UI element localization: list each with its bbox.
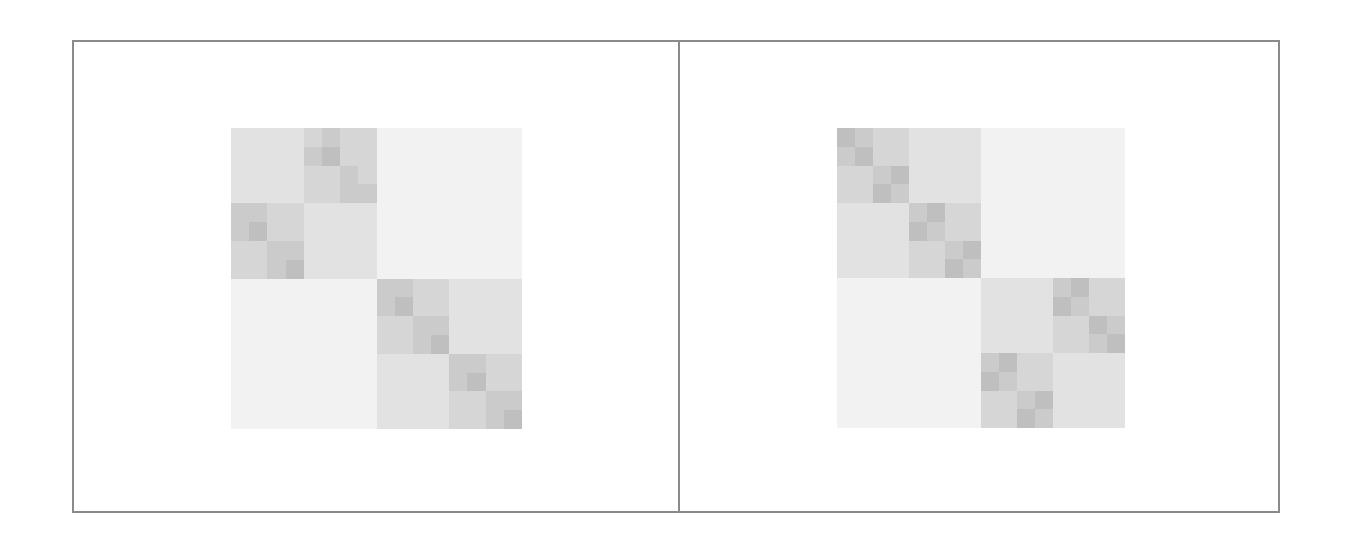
- matrix-cell: [486, 410, 504, 429]
- matrix-cell: [304, 147, 322, 166]
- matrix-cell: [1107, 391, 1125, 410]
- matrix-cell: [963, 222, 981, 241]
- matrix-cell: [304, 166, 322, 185]
- matrix-cell: [486, 373, 504, 392]
- matrix-cell: [413, 128, 431, 147]
- matrix-cell: [231, 147, 249, 166]
- matrix-cell: [267, 354, 285, 373]
- matrix-cell: [855, 259, 873, 278]
- matrix-cell: [286, 203, 304, 222]
- matrix-cell: [855, 278, 873, 297]
- matrix-cell: [909, 184, 927, 203]
- matrix-cell: [1089, 128, 1107, 147]
- matrix-cell: [395, 335, 413, 354]
- matrix-cell: [322, 354, 340, 373]
- matrix-cell: [340, 279, 358, 298]
- matrix-cell: [431, 279, 449, 298]
- matrix-cell: [837, 128, 855, 147]
- matrix-cell: [286, 222, 304, 241]
- matrix-cell: [449, 184, 467, 203]
- matrix-cell: [1071, 184, 1089, 203]
- matrix-cell: [486, 260, 504, 279]
- matrix-cell: [249, 391, 267, 410]
- matrix-cell: [891, 166, 909, 185]
- matrix-cell: [873, 409, 891, 428]
- matrix-cell: [999, 334, 1017, 353]
- matrix-cell: [486, 203, 504, 222]
- matrix-cell: [873, 128, 891, 147]
- matrix-cell: [981, 353, 999, 372]
- matrix-cell: [1017, 278, 1035, 297]
- matrix-cell: [358, 222, 376, 241]
- matrix-cell: [504, 297, 522, 316]
- matrix-cell: [1053, 241, 1071, 260]
- matrix-cell: [963, 353, 981, 372]
- matrix-cell: [449, 147, 467, 166]
- matrix-cell: [286, 410, 304, 429]
- matrix-cell: [486, 166, 504, 185]
- matrix-cell: [467, 391, 485, 410]
- matrix-cell: [855, 241, 873, 260]
- matrix-cell: [891, 278, 909, 297]
- matrix-cell: [927, 203, 945, 222]
- matrix-cell: [1107, 203, 1125, 222]
- matrix-cell: [504, 128, 522, 147]
- matrix-cell: [1107, 297, 1125, 316]
- matrix-cell: [855, 316, 873, 335]
- matrix-cell: [304, 316, 322, 335]
- matrix-cell: [1107, 409, 1125, 428]
- matrix-cell: [927, 259, 945, 278]
- matrix-cell: [981, 184, 999, 203]
- matrix-cell: [1053, 203, 1071, 222]
- matrix-cell: [945, 372, 963, 391]
- matrix-cell: [1017, 391, 1035, 410]
- matrix-cell: [999, 128, 1017, 147]
- matrix-cell: [358, 373, 376, 392]
- matrix-cell: [467, 147, 485, 166]
- matrix-cell: [431, 184, 449, 203]
- matrix-cell: [1035, 334, 1053, 353]
- matrix-cell: [358, 316, 376, 335]
- matrix-cell: [1089, 147, 1107, 166]
- matrix-cell: [377, 354, 395, 373]
- matrix-cell: [981, 259, 999, 278]
- matrix-cell: [449, 297, 467, 316]
- matrix-cell: [267, 316, 285, 335]
- matrix-cell: [891, 409, 909, 428]
- matrix-cell: [837, 353, 855, 372]
- matrix-cell: [1071, 278, 1089, 297]
- matrix-cell: [837, 391, 855, 410]
- matrix-cell: [909, 297, 927, 316]
- matrix-cell: [837, 297, 855, 316]
- matrix-cell: [504, 260, 522, 279]
- matrix-cell: [909, 409, 927, 428]
- matrix-cell: [1071, 259, 1089, 278]
- matrix-cell: [322, 260, 340, 279]
- matrix-cell: [286, 354, 304, 373]
- matrix-cell: [249, 128, 267, 147]
- matrix-cell: [267, 203, 285, 222]
- matrix-cell: [1107, 147, 1125, 166]
- matrix-cell: [1053, 372, 1071, 391]
- matrix-cell: [855, 372, 873, 391]
- matrix-cell: [286, 297, 304, 316]
- matrix-cell: [837, 316, 855, 335]
- matrix-cell: [855, 184, 873, 203]
- matrix-cell: [1071, 147, 1089, 166]
- matrix-cell: [249, 297, 267, 316]
- matrix-cell: [909, 259, 927, 278]
- matrix-cell: [945, 184, 963, 203]
- matrix-cell: [358, 166, 376, 185]
- matrix-cell: [467, 279, 485, 298]
- matrix-cell: [981, 334, 999, 353]
- matrix-cell: [963, 128, 981, 147]
- matrix-cell: [1071, 391, 1089, 410]
- matrix-cell: [981, 147, 999, 166]
- matrix-cell: [1071, 297, 1089, 316]
- matrix-cell: [1089, 391, 1107, 410]
- matrix-cell: [249, 241, 267, 260]
- matrix-cell: [1053, 316, 1071, 335]
- matrix-cell: [945, 166, 963, 185]
- matrix-cell: [395, 354, 413, 373]
- matrix-cell: [231, 279, 249, 298]
